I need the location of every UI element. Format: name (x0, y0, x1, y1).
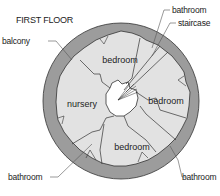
room-label-nursery: nursery (67, 99, 98, 109)
floor-plan-svg: bedroom nursery bedroom bedroom (0, 0, 220, 196)
room-label-bedroom-bottom: bedroom (114, 142, 150, 152)
label-staircase: staircase (178, 18, 210, 28)
label-balcony: balcony (2, 36, 30, 46)
room-label-bedroom-top: bedroom (102, 55, 138, 65)
label-bathroom-bottom-left: bathroom (8, 172, 42, 182)
floor-title: FIRST FLOOR (16, 15, 73, 25)
label-bathroom-top: bathroom (172, 5, 206, 15)
floor-plan-diagram: bedroom nursery bedroom bedroom (0, 0, 220, 196)
label-bathroom-bottom-right: bathroom (182, 172, 216, 182)
room-label-bedroom-right: bedroom (148, 96, 184, 106)
